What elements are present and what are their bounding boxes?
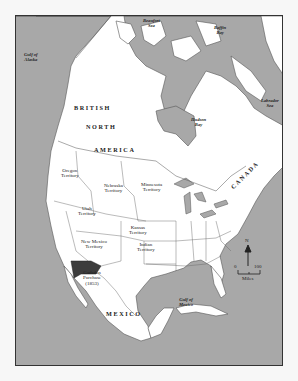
label-oregon-territory: Oregon Territory <box>61 168 79 179</box>
map-frame: Beaufort Sea Baffin Bay Gulf of Alaska H… <box>15 15 283 366</box>
label-indian-territory: Indian Territory <box>137 242 155 253</box>
label-hudson-bay: Hudson Bay <box>191 118 206 128</box>
label-minnesota-territory: Minnesota Territory <box>141 182 162 193</box>
label-nebraska-territory: Nebraska Territory <box>104 183 123 194</box>
label-gulf-of-alaska: Gulf of Alaska <box>24 53 38 63</box>
label-utah-territory: Utah Territory <box>78 206 96 217</box>
label-gulf-of-mexico: Gulf of Mexico <box>179 298 193 308</box>
label-gadsden-purchase: Gadsden Purchase (1853) <box>83 270 101 286</box>
label-british: BRITISH <box>74 105 111 112</box>
scale-bar-icon <box>238 270 260 274</box>
label-america: AMERICA <box>94 147 135 154</box>
compass-north-label: N <box>245 238 249 243</box>
label-baffin-bay: Baffin Bay <box>214 26 226 36</box>
label-north: NORTH <box>86 124 116 131</box>
compass-arrow-icon <box>245 245 251 266</box>
scale-start-label: 0 <box>234 264 237 269</box>
label-beaufort-sea: Beaufort Sea <box>143 19 160 29</box>
scale-unit-label: Miles <box>242 276 253 281</box>
label-kansas-territory: Kansas Territory <box>129 225 147 236</box>
label-mexico: MEXICO <box>106 311 142 318</box>
label-labrador-sea: Labrador Sea <box>261 99 279 109</box>
scale-end-label: 100 <box>254 264 262 269</box>
label-new-mexico-territory: New Mexico Territory <box>81 239 107 250</box>
